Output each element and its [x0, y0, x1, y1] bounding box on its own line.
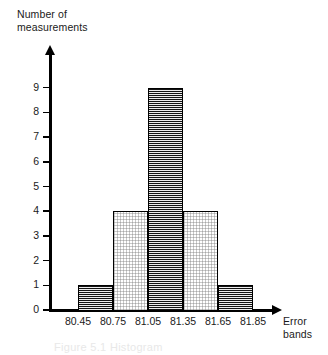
y-axis-tick: [43, 235, 49, 237]
y-axis-tick-label: 8: [25, 105, 39, 117]
y-axis-tick-label: 3: [25, 229, 39, 241]
chart-screenshot: Number of measurements Error bands 01234…: [0, 0, 328, 355]
plot-area: 0123456789 80.4580.7581.0581.3581.6581.8…: [0, 0, 328, 355]
bar: [183, 211, 218, 310]
y-axis-tick: [43, 186, 49, 188]
x-axis-tick-label: 80.45: [61, 315, 95, 327]
y-axis-tick-label: 2: [25, 254, 39, 266]
y-axis-tick: [43, 210, 49, 212]
bar: [218, 285, 253, 310]
y-axis-tick: [43, 285, 49, 287]
x-axis-tick-label: 81.85: [236, 315, 270, 327]
y-axis-line: [49, 54, 52, 311]
y-axis-tick: [43, 136, 49, 138]
figure-caption: Figure 5.1 Histogram: [54, 341, 163, 353]
y-axis-tick-label: 7: [25, 130, 39, 142]
y-axis-tick-label: 6: [25, 155, 39, 167]
x-axis-tick-label: 81.05: [131, 315, 165, 327]
x-axis-tick-label: 80.75: [96, 315, 130, 327]
bar: [113, 211, 148, 310]
y-axis-tick-label: 0: [25, 303, 39, 315]
y-axis-tick-label: 5: [25, 180, 39, 192]
y-axis-tick-label: 4: [25, 204, 39, 216]
y-axis-tick-label: 1: [25, 278, 39, 290]
bar: [148, 88, 183, 310]
y-axis-tick: [43, 161, 49, 163]
x-axis-tick-label: 81.35: [166, 315, 200, 327]
y-axis-tick: [43, 260, 49, 262]
y-axis-tick: [43, 309, 49, 311]
y-axis-tick: [43, 112, 49, 114]
y-axis-arrow-icon: [45, 45, 55, 55]
y-axis-tick: [43, 87, 49, 89]
bar: [78, 285, 113, 310]
x-axis-arrow-icon: [272, 305, 282, 315]
x-axis-tick-label: 81.65: [201, 315, 235, 327]
y-axis-tick-label: 9: [25, 81, 39, 93]
